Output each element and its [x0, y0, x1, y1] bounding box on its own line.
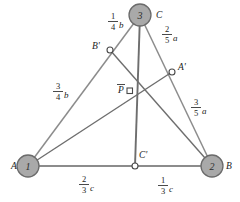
point-Cprime-marker: [132, 163, 138, 169]
point-Bprime-label: B': [92, 41, 101, 51]
cevian-C-to-Cprime: [135, 15, 140, 166]
point-P-group: P: [117, 85, 133, 96]
vertex-B-number: 2: [210, 161, 215, 172]
vertex-C-number: 3: [137, 10, 143, 21]
point-Bprime-marker: [107, 47, 113, 53]
point-Cprime-label: C': [139, 150, 148, 160]
point-Aprime-label: A': [177, 62, 187, 72]
label-1-3-c-denominator: 3: [161, 186, 165, 196]
label-2-3-c: 2 3 c: [79, 174, 94, 195]
vertex-B-label: B: [226, 161, 232, 171]
geometry-figure: 1 A 2 B 3 C A' B' C' P: [0, 0, 240, 202]
figure-canvas: 1 A 2 B 3 C A' B' C' P: [0, 0, 240, 202]
vertex-A-label: A: [10, 161, 17, 171]
cevian-A-to-Aprime: [28, 72, 172, 166]
point-Aprime-group: A': [169, 62, 187, 75]
label-3-4-b-numerator: 3: [56, 81, 60, 91]
label-2-3-c-numerator: 2: [82, 174, 86, 184]
label-3-5-a-variable: a: [202, 106, 207, 116]
label-1-4-b-variable: b: [119, 20, 124, 30]
point-P-marker: [127, 88, 133, 94]
label-2-5-a-numerator: 2: [165, 24, 169, 34]
label-2-5-a-denominator: 5: [165, 35, 169, 45]
label-2-5-a: 2 5 a: [162, 24, 178, 45]
label-3-5-a-denominator: 5: [194, 108, 198, 118]
point-Bprime-group: B': [92, 41, 113, 53]
vertex-A-group: 1 A: [10, 155, 39, 177]
label-2-5-a-variable: a: [173, 33, 178, 43]
label-1-3-c: 1 3 c: [158, 175, 173, 196]
point-P-label: P: [117, 85, 124, 95]
label-3-4-b-denominator: 4: [56, 92, 61, 102]
vertex-B-group: 2 B: [201, 155, 232, 177]
point-Aprime-marker: [169, 69, 175, 75]
label-1-4-b: 1 4 b: [108, 11, 124, 32]
vertex-C-label: C: [156, 10, 163, 20]
label-1-4-b-numerator: 1: [111, 11, 115, 21]
label-3-5-a-numerator: 3: [194, 97, 198, 107]
label-1-3-c-variable: c: [169, 184, 173, 194]
label-3-4-b: 3 4 b: [53, 81, 69, 102]
label-2-3-c-denominator: 3: [82, 185, 86, 195]
vertex-C-group: 3 C: [129, 4, 163, 26]
label-1-4-b-denominator: 4: [111, 22, 116, 32]
label-3-4-b-variable: b: [64, 90, 69, 100]
vertex-A-number: 1: [26, 161, 31, 172]
label-2-3-c-variable: c: [90, 183, 94, 193]
label-3-5-a: 3 5 a: [191, 97, 207, 118]
label-1-3-c-numerator: 1: [161, 175, 165, 185]
